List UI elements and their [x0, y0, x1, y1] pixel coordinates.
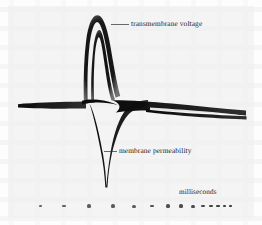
time-tick-mark [62, 205, 65, 208]
time-tick-mark [209, 205, 212, 208]
time-tick-mark [179, 204, 183, 207]
time-tick-mark [229, 205, 232, 208]
annotation-transmembrane-voltage: transmembrane voltage [131, 19, 202, 28]
voltage-curve-outer [84, 15, 120, 103]
time-tick-mark [132, 205, 136, 208]
axis-label-milliseconds: milliseconds [179, 188, 217, 196]
time-tick-mark [150, 205, 154, 208]
baseline-left [18, 102, 86, 109]
time-tick-mark [216, 205, 219, 208]
oscilloscope-trace [0, 0, 262, 225]
annotation-membrane-permeability: membrane permeability [119, 146, 192, 155]
time-axis-tick-row [0, 202, 262, 214]
figure-root: transmembrane voltage membrane permeabil… [0, 0, 262, 225]
time-tick-mark [201, 205, 205, 208]
time-tick-mark [111, 204, 116, 207]
time-tick-mark [166, 204, 170, 207]
permeability-curve [88, 100, 148, 188]
time-tick-mark [223, 205, 226, 208]
time-tick-mark [39, 205, 42, 207]
time-tick-mark [87, 204, 91, 207]
time-tick-mark [191, 205, 195, 208]
